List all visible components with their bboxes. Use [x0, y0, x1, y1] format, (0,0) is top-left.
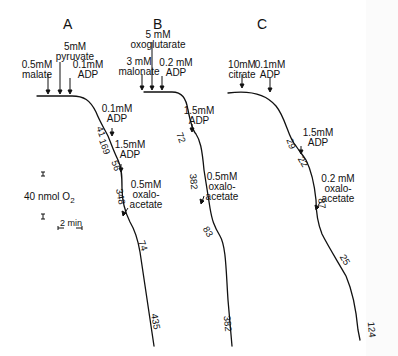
addition-a-oxaloacetate: 0.5mMoxalo-acetate	[124, 180, 168, 210]
rate-c-124: 124	[366, 321, 378, 338]
addition-a-adp1: 0.1mMADP	[68, 60, 108, 80]
addition-c-adp1: 0.1mMADP	[250, 60, 290, 80]
trace-c	[228, 92, 360, 340]
rate-b-382-1: 382	[188, 173, 200, 190]
scale-time-label: 2 min	[60, 218, 82, 228]
rate-b-382-2: 382	[222, 315, 234, 332]
addition-b-adp2: 1.5mMADP	[179, 106, 219, 126]
addition-b-adp1: 0.2 mMADP	[156, 58, 196, 78]
panel-title-a: A	[63, 16, 72, 32]
addition-b-oxoglutarate: 5 mMoxoglutarate	[128, 30, 188, 50]
addition-c-adp2: 1.5mMADP	[298, 128, 338, 148]
addition-b-oxaloacetate: 0.5mMoxalo-acetate	[200, 172, 244, 202]
panel-title-c: C	[257, 16, 267, 32]
addition-a-adp3: 1.5mMADP	[110, 140, 150, 160]
addition-a-adp2: 0.1mMADP	[97, 104, 137, 124]
scale-oxygen-label: 40 nmol O2	[24, 192, 75, 206]
addition-b-malonate: 3 mMmalonate	[117, 57, 161, 77]
trace-b	[144, 92, 232, 346]
addition-a-malate: 0.5mMmalate	[17, 60, 57, 80]
rate-c-87: 87	[316, 198, 328, 209]
